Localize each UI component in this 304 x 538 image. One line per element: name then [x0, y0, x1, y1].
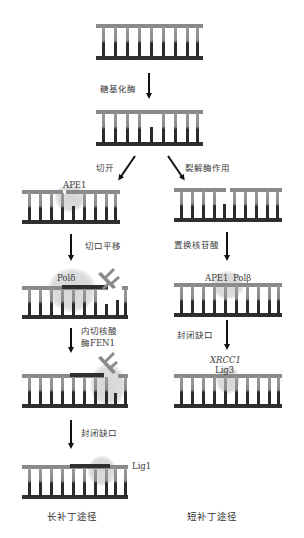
dna-ape1-left — [22, 184, 120, 224]
label-nucleotide-replacement: 置换核苷酸 — [174, 240, 219, 250]
label-endonuclease-1: 内切核酸 — [81, 326, 117, 336]
arrow-incision — [120, 156, 135, 178]
dna-base-removed — [96, 110, 203, 146]
dna-lyase-right — [174, 188, 282, 222]
label-pol-beta: Polβ — [233, 273, 251, 283]
label-seal-long: 封闭缺口 — [81, 428, 117, 438]
label-ape1-right: APE1 — [205, 273, 228, 283]
arrow-lyase — [168, 156, 183, 178]
label-xrcc1: XRCC1 — [210, 355, 241, 365]
dna-repair-diagram — [0, 0, 304, 538]
caption-long-patch: 长补丁途径 — [47, 509, 97, 523]
dna-lig1 — [22, 456, 128, 499]
label-seal-short: 封闭缺口 — [177, 330, 213, 340]
dna-fen1 — [22, 352, 128, 408]
label-ape1-left: APE1 — [63, 180, 86, 190]
label-lig1: Lig1 — [132, 461, 151, 471]
label-nick-translation: 切口平移 — [85, 241, 121, 251]
label-glycosylase: 糖基化酶 — [100, 84, 136, 94]
caption-short-patch: 短补丁途径 — [187, 509, 237, 523]
label-lyase: 裂解酶作用 — [185, 163, 230, 173]
label-lig3: Lig3 — [215, 365, 234, 375]
label-endonuclease-2: 酶FEN1 — [81, 338, 115, 348]
enzyme-lig1 — [88, 456, 116, 486]
label-pol-delta: Polδ — [57, 273, 75, 283]
dna-intact — [96, 24, 203, 60]
label-incision: 切开 — [96, 163, 114, 173]
